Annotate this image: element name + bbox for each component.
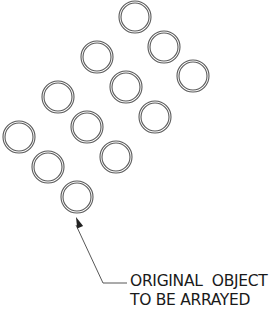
arrayed-circle bbox=[32, 151, 64, 183]
arrowhead-icon bbox=[76, 217, 83, 228]
arrayed-circle bbox=[148, 31, 180, 63]
arrayed-circle bbox=[81, 41, 113, 73]
circle-inner-ring bbox=[121, 3, 149, 31]
circle-outer-ring bbox=[148, 31, 180, 63]
circle-inner-ring bbox=[150, 33, 178, 61]
circle-outer-ring bbox=[100, 141, 132, 173]
circle-outer-ring bbox=[177, 60, 209, 92]
circle-inner-ring bbox=[44, 83, 72, 111]
original-circle bbox=[61, 181, 93, 213]
callout-label-line1: ORIGINAL OBJECT bbox=[130, 272, 268, 291]
circle-outer-ring bbox=[3, 121, 35, 153]
circle-inner-ring bbox=[112, 73, 140, 101]
circle-outer-ring bbox=[71, 111, 103, 143]
circle-inner-ring bbox=[73, 113, 101, 141]
arrayed-circle bbox=[42, 81, 74, 113]
arrayed-circle bbox=[100, 141, 132, 173]
arrayed-circle bbox=[71, 111, 103, 143]
arrayed-circle bbox=[110, 71, 142, 103]
array-diagram bbox=[0, 0, 277, 313]
circle-inner-ring bbox=[63, 183, 91, 211]
arrayed-circle bbox=[177, 60, 209, 92]
callout-label-line2: TO BE ARRAYED bbox=[130, 291, 250, 310]
circle-inner-ring bbox=[102, 143, 130, 171]
circle-inner-ring bbox=[179, 62, 207, 90]
circle-outer-ring bbox=[119, 1, 151, 33]
circle-inner-ring bbox=[141, 103, 169, 131]
circle-outer-ring bbox=[139, 101, 171, 133]
circle-array bbox=[3, 1, 209, 213]
leader-line bbox=[76, 225, 127, 283]
arrayed-circle bbox=[119, 1, 151, 33]
circle-outer-ring bbox=[42, 81, 74, 113]
circle-outer-ring bbox=[61, 181, 93, 213]
circle-inner-ring bbox=[5, 123, 33, 151]
circle-inner-ring bbox=[34, 153, 62, 181]
circle-outer-ring bbox=[110, 71, 142, 103]
callout-leader bbox=[76, 217, 127, 283]
circle-outer-ring bbox=[32, 151, 64, 183]
arrayed-circle bbox=[139, 101, 171, 133]
circle-inner-ring bbox=[83, 43, 111, 71]
arrayed-circle bbox=[3, 121, 35, 153]
circle-outer-ring bbox=[81, 41, 113, 73]
